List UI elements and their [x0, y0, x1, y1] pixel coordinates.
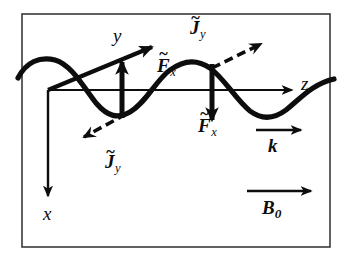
- sinusoidal-wave: [18, 59, 334, 117]
- wave-force-diagram: [0, 0, 353, 261]
- b-subscript: 0: [275, 206, 282, 221]
- current-arrow-upper-right: [212, 44, 261, 68]
- figure-canvas: y z x ~ F x ~ F x ~ J y ~ J y k B0: [0, 0, 353, 261]
- tilde-accent-icon: ~: [191, 10, 200, 26]
- label-current-y-lower: ~ J y: [105, 152, 120, 171]
- force-subscript: x: [211, 125, 217, 139]
- label-current-y-upper: ~ J y: [190, 18, 205, 37]
- b-symbol: B: [262, 197, 275, 218]
- tilde-accent-icon: ~: [200, 106, 209, 122]
- axis-label-y: y: [113, 26, 121, 45]
- label-force-x-upper: ~ F x: [157, 56, 175, 75]
- force-subscript: x: [170, 65, 176, 79]
- label-magnetic-field-b0: B0: [262, 198, 281, 217]
- current-subscript: y: [115, 161, 121, 175]
- current-subscript: y: [200, 27, 206, 41]
- y-axis: [48, 47, 152, 90]
- axis-label-z: z: [301, 74, 308, 93]
- tilde-accent-icon: ~: [159, 46, 168, 62]
- tilde-accent-icon: ~: [106, 144, 115, 160]
- label-force-x-lower: ~ F x: [198, 116, 216, 135]
- current-arrow-lower-left: [84, 114, 126, 137]
- axis-label-x: x: [43, 204, 51, 223]
- label-wavevector-k: k: [268, 136, 278, 155]
